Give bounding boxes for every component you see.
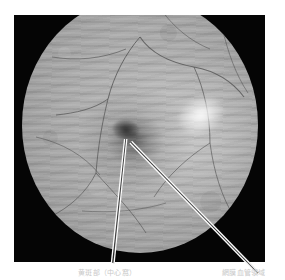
fundus-disc <box>22 15 258 253</box>
fundus-photo-plate <box>14 15 265 262</box>
caption-label-right: 網膜血管領域 <box>222 268 266 277</box>
caption-row: 黄斑部（中心窩） 網膜血管領域 <box>0 268 285 280</box>
retinal-vessel-overlay <box>22 15 258 253</box>
figure-root: 黄斑部（中心窩） 網膜血管領域 <box>0 0 285 280</box>
caption-label-left: 黄斑部（中心窩） <box>78 268 136 277</box>
